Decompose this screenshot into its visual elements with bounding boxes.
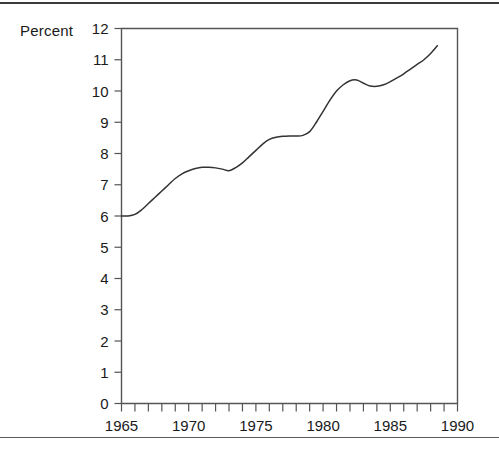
y-axis-tick-label: 12 bbox=[92, 20, 109, 37]
x-axis-tick-label: 1965 bbox=[105, 417, 138, 434]
y-axis-tick-mark-group bbox=[115, 29, 122, 404]
y-axis-tick-label: 1 bbox=[100, 364, 108, 381]
x-axis-tick-label: 1985 bbox=[374, 417, 407, 434]
figure-root: Percent 0123456789101112 196519701975198… bbox=[0, 0, 499, 452]
x-axis-tick-label: 1970 bbox=[172, 417, 205, 434]
x-axis-tick-mark-group bbox=[122, 404, 458, 412]
y-axis-tick-label: 5 bbox=[100, 239, 108, 256]
y-axis-tick-label: 10 bbox=[92, 83, 109, 100]
y-axis-tick-label: 7 bbox=[100, 176, 108, 193]
y-axis-tick-label: 11 bbox=[93, 51, 109, 68]
y-axis-tick-label: 2 bbox=[100, 333, 108, 350]
x-axis-tick-label: 1990 bbox=[441, 417, 474, 434]
bottom-divider-rule bbox=[0, 437, 499, 438]
plot-frame-border bbox=[122, 29, 458, 404]
y-axis-tick-label: 9 bbox=[100, 114, 108, 131]
y-axis-tick-label: 0 bbox=[100, 395, 108, 412]
data-series-line-percent bbox=[122, 46, 438, 216]
x-axis-tick-label: 1975 bbox=[239, 417, 272, 434]
x-axis-tick-label-group: 196519701975198019851990 bbox=[105, 417, 474, 434]
y-axis-tick-label: 4 bbox=[100, 270, 108, 287]
y-axis-tick-label: 8 bbox=[100, 145, 108, 162]
y-axis-tick-label-group: 0123456789101112 bbox=[92, 20, 109, 412]
y-axis-tick-label: 3 bbox=[100, 301, 108, 318]
y-axis-tick-label: 6 bbox=[100, 208, 108, 225]
x-axis-tick-label: 1980 bbox=[306, 417, 339, 434]
line-chart-plot: 0123456789101112 19651970197519801985199… bbox=[0, 0, 499, 452]
